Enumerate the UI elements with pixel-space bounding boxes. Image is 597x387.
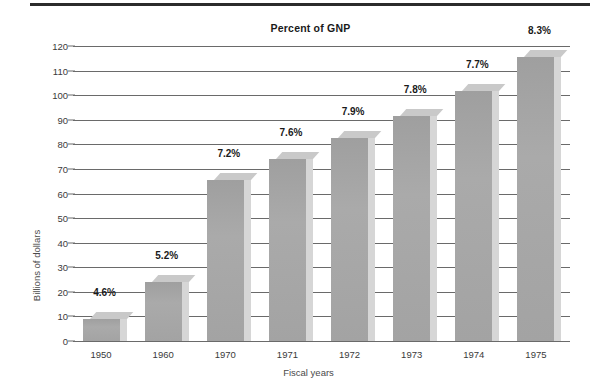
bar-side-face <box>120 319 127 341</box>
bar <box>455 84 492 341</box>
bar-top-face <box>276 152 319 159</box>
chart-title: Percent of GNP <box>0 22 597 34</box>
bar-top-face <box>462 84 505 91</box>
bar-data-label: 7.8% <box>404 84 427 95</box>
x-tick-label: 1971 <box>277 349 298 360</box>
bar-data-label: 8.3% <box>528 25 551 36</box>
bar <box>517 50 554 341</box>
y-tick-label: 30 <box>34 262 68 273</box>
x-axis-title-text: Fiscal years <box>283 367 334 378</box>
bar-side-face <box>492 91 499 341</box>
bar-side-face <box>368 138 375 341</box>
bar-data-label: 7.7% <box>466 59 489 70</box>
bar <box>145 275 182 341</box>
y-tick-label: 60 <box>34 188 68 199</box>
bar-data-label: 7.2% <box>217 148 240 159</box>
y-tick-label: 20 <box>34 286 68 297</box>
bar-side-face <box>182 282 189 341</box>
y-tick-label: 100 <box>34 90 68 101</box>
bar-top-face <box>400 109 443 116</box>
bar-front-face <box>145 282 182 341</box>
x-tick-label: 1973 <box>401 349 422 360</box>
y-tick-label: 90 <box>34 114 68 125</box>
bar-data-label: 5.2% <box>155 250 178 261</box>
y-tick-label: 40 <box>34 237 68 248</box>
x-tick-label: 1975 <box>525 349 546 360</box>
bar <box>207 173 244 341</box>
bar-data-label: 4.6% <box>93 287 116 298</box>
bar <box>83 312 120 341</box>
bar-front-face <box>455 91 492 341</box>
x-tick-label: 1960 <box>153 349 174 360</box>
bar-data-label: 7.6% <box>280 127 303 138</box>
bar <box>393 109 430 341</box>
x-tick-label: 1970 <box>215 349 236 360</box>
bar-side-face <box>554 57 561 341</box>
bar-front-face <box>331 138 368 341</box>
bar-front-face <box>83 319 120 341</box>
x-tick-label: 1974 <box>463 349 484 360</box>
bar-data-label: 7.9% <box>342 106 365 117</box>
y-tick-label: 120 <box>34 41 68 52</box>
gridline <box>73 341 570 342</box>
bar-side-face <box>244 180 251 341</box>
bar <box>331 131 368 341</box>
header-rule <box>30 3 590 6</box>
x-axis-title: Fiscal years <box>0 367 597 378</box>
bar-front-face <box>269 159 306 341</box>
y-tick-label: 110 <box>34 65 68 76</box>
gridline <box>73 46 570 47</box>
y-tick-label: 0 <box>34 336 68 347</box>
bar-top-face <box>90 312 133 319</box>
bar <box>269 152 306 341</box>
bar-front-face <box>207 180 244 341</box>
gridline <box>73 71 570 72</box>
y-tick-label: 70 <box>34 163 68 174</box>
bar-top-face <box>152 275 195 282</box>
bar-front-face <box>393 116 430 341</box>
chart-figure: Percent of GNP Billions of dollars 01020… <box>0 0 597 387</box>
plot-area: 4.6%5.2%7.2%7.6%7.9%7.8%7.7%8.3% <box>73 46 570 341</box>
bar-top-face <box>214 173 257 180</box>
x-tick-label: 1950 <box>90 349 111 360</box>
y-axis-ticks: 0102030405060708090100110120 <box>30 46 68 341</box>
y-tick-label: 10 <box>34 311 68 322</box>
y-tick-label: 50 <box>34 213 68 224</box>
y-tick-label: 80 <box>34 139 68 150</box>
bar-front-face <box>517 57 554 341</box>
bar-top-face <box>524 50 567 57</box>
bar-top-face <box>338 131 381 138</box>
bar-side-face <box>430 116 437 341</box>
chart-title-text: Percent of GNP <box>271 22 351 34</box>
bar-side-face <box>306 159 313 341</box>
x-tick-label: 1972 <box>339 349 360 360</box>
